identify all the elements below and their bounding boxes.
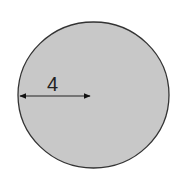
circle [18, 22, 169, 168]
circle-diagram: 4 [0, 0, 179, 193]
radius-label: 4 [47, 73, 58, 95]
